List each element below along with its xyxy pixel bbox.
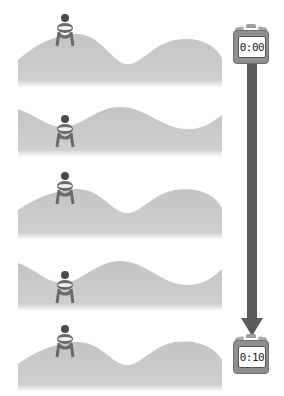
- stopwatch-icon: [246, 24, 256, 28]
- figure-icon: [50, 12, 80, 52]
- time-arrow-shaft: [247, 62, 257, 320]
- wave-trough-shape: [0, 95, 230, 175]
- wave-frame-1: [0, 10, 230, 90]
- wave-frame-4: [0, 245, 230, 325]
- wave-crest-shape: [0, 320, 230, 396]
- wave-frame-5: [0, 320, 230, 396]
- figure-icon: [50, 170, 80, 210]
- stopwatch-start: 0:00: [232, 24, 270, 64]
- wave-crest-shape: [0, 10, 230, 90]
- stopwatch-end: 0:10: [232, 334, 270, 374]
- wave-crest-shape: [0, 170, 230, 250]
- figure-icon: [50, 269, 80, 309]
- stopwatch-icon: [246, 334, 256, 338]
- wave-frame-3: [0, 170, 230, 250]
- timer-start-label: 0:00: [238, 36, 266, 58]
- wave-frame-2: [0, 95, 230, 175]
- wave-trough-shape: [0, 245, 230, 325]
- timer-end-label: 0:10: [238, 346, 266, 368]
- figure-icon: [50, 323, 80, 363]
- figure-icon: [50, 113, 80, 153]
